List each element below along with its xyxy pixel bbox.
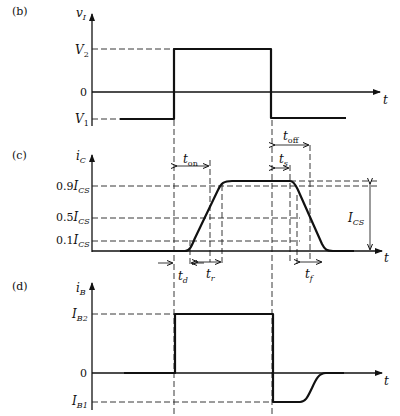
panel-b-input-voltage: (b) vI t V2 0 V1 [12, 5, 388, 128]
level-zero-label: 0 [80, 86, 87, 99]
bjt-switching-waveforms-diagram: (b) vI t V2 0 V1 (c) iC t 0.9ICS 0.5ICS … [0, 0, 400, 416]
level-v1-label: V1 [75, 112, 89, 128]
level-ib1-label: IB1 [71, 394, 88, 410]
base-current-waveform [124, 314, 344, 402]
panel-d-base-current: (d) iB t IB2 0 IB1 [12, 280, 389, 410]
panel-b-x-axis-label: t [383, 93, 388, 107]
panel-c-y-axis-label: iC [76, 149, 86, 165]
t-r-label: tr [206, 267, 216, 283]
panel-b-y-axis-label: vI [76, 6, 87, 22]
level-ib2-label: IB2 [71, 307, 88, 323]
level-0.1ics-label: 0.1ICS [56, 233, 90, 249]
t-d-label: td [178, 269, 188, 285]
level-v2-label: V2 [75, 43, 89, 59]
panel-d-label: (d) [12, 280, 28, 293]
t-s-label: ts [279, 152, 288, 168]
panel-d-y-axis-label: iB [76, 281, 86, 297]
ics-amplitude-label: ICS [347, 211, 365, 227]
panel-d-x-axis-label: t [384, 374, 389, 388]
collector-current-waveform [120, 181, 354, 251]
t-f-label: tf [305, 267, 315, 283]
panel-c-label: (c) [12, 149, 27, 162]
panel-c-collector-current: (c) iC t 0.9ICS 0.5ICS 0.1ICS ICS ton to… [12, 129, 389, 285]
panel-b-label: (b) [12, 5, 28, 18]
input-voltage-waveform [120, 49, 346, 119]
panel-c-x-axis-label: t [384, 251, 389, 265]
level-zero-label: 0 [80, 367, 87, 380]
level-0.9ics-label: 0.9ICS [56, 179, 90, 195]
level-0.5ics-label: 0.5ICS [56, 210, 90, 226]
t-off-label: toff [283, 129, 300, 145]
